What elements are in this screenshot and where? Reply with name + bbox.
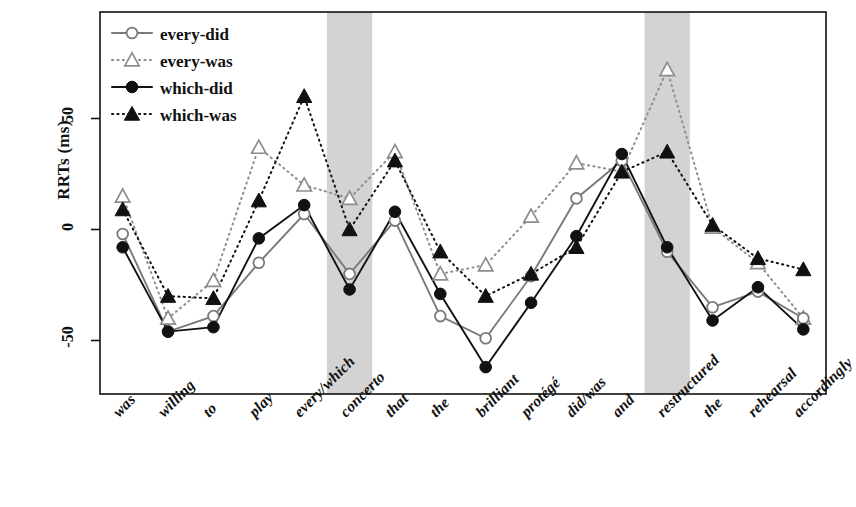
legend-label-which-was: which-was xyxy=(160,106,237,126)
data-point-every-did-8 xyxy=(480,333,491,344)
data-point-which-did-2 xyxy=(208,321,220,333)
data-point-every-was-10 xyxy=(569,156,583,169)
data-point-every-did-2 xyxy=(208,311,219,322)
legend-label-every-was: every-was xyxy=(160,52,233,72)
data-point-which-was-2 xyxy=(206,291,221,305)
data-point-which-was-14 xyxy=(750,251,765,265)
series-markers-every-was xyxy=(115,62,810,324)
legend-glyph-every-was xyxy=(112,53,152,66)
data-point-which-did-6 xyxy=(389,206,401,218)
data-point-every-was-0 xyxy=(115,189,129,202)
data-point-which-did-9 xyxy=(525,297,537,309)
legend-glyph-which-did xyxy=(112,81,152,93)
data-point-which-did-15 xyxy=(798,324,810,336)
data-point-which-did-10 xyxy=(571,230,583,242)
legend-glyph-which-was xyxy=(112,106,152,120)
data-point-which-did-4 xyxy=(298,199,310,211)
legend-marker-every-did xyxy=(127,28,138,39)
data-point-which-did-11 xyxy=(616,148,628,160)
data-point-which-did-5 xyxy=(344,284,356,296)
legend-label-every-did: every-did xyxy=(160,25,229,45)
data-point-every-did-0 xyxy=(117,229,128,240)
data-point-which-was-7 xyxy=(433,244,448,258)
data-point-every-was-3 xyxy=(252,140,266,153)
data-point-every-was-2 xyxy=(206,273,220,286)
legend-label-which-did: which-did xyxy=(160,79,233,99)
data-point-every-did-5 xyxy=(344,269,355,280)
data-point-which-did-1 xyxy=(162,326,174,338)
series-which-did xyxy=(123,154,804,367)
data-point-which-did-14 xyxy=(752,281,764,293)
data-point-which-was-3 xyxy=(251,193,266,207)
legend-marker-every-was xyxy=(125,53,139,66)
series-line-which-was xyxy=(123,96,804,298)
data-point-every-was-4 xyxy=(297,178,311,191)
data-point-every-did-7 xyxy=(435,311,446,322)
data-point-every-did-13 xyxy=(707,302,718,313)
series-line-which-did xyxy=(123,154,804,367)
legend-marker-which-was xyxy=(124,106,139,120)
data-point-every-did-3 xyxy=(253,257,264,268)
data-point-every-did-10 xyxy=(571,193,582,204)
legend-marker-which-did xyxy=(126,81,138,93)
data-point-every-was-1 xyxy=(161,311,175,324)
data-point-which-did-13 xyxy=(707,315,719,327)
data-point-which-was-13 xyxy=(705,217,720,231)
data-point-which-did-7 xyxy=(435,288,447,300)
series-which-was xyxy=(123,96,804,298)
data-point-which-did-12 xyxy=(661,241,673,253)
data-point-every-did-15 xyxy=(798,313,809,324)
data-point-which-did-0 xyxy=(117,241,129,253)
data-point-which-did-3 xyxy=(253,233,265,245)
data-point-which-did-8 xyxy=(480,361,492,373)
series-markers-every-did xyxy=(117,155,808,343)
legend-glyph-every-did xyxy=(112,28,152,39)
data-point-which-was-0 xyxy=(115,202,130,216)
data-point-which-was-4 xyxy=(297,89,312,103)
